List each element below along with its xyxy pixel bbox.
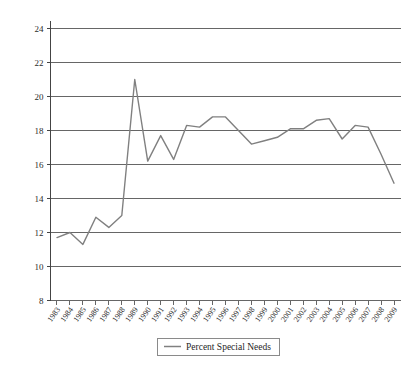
x-axis-ticks: [57, 301, 394, 305]
x-tick-label: 1997: [227, 305, 244, 323]
x-tick-label: 2008: [370, 305, 387, 323]
x-tick-label: 2005: [331, 305, 348, 323]
x-tick-label: 2004: [318, 305, 335, 323]
x-tick-label: 2002: [292, 305, 309, 323]
y-tick-label: 16: [35, 160, 45, 170]
x-tick-label: 1989: [123, 305, 140, 323]
x-tick-label: 2007: [357, 305, 374, 323]
x-tick-label: 1986: [84, 305, 101, 323]
y-axis: [47, 21, 51, 301]
x-tick-label: 1983: [46, 305, 63, 323]
y-tick-label: 12: [35, 228, 44, 238]
y-tick-label: 14: [35, 194, 45, 204]
series-line: [57, 80, 394, 245]
x-tick-label: 1990: [136, 305, 153, 323]
x-tick-label: 1996: [214, 305, 231, 323]
y-tick-label: 8: [39, 296, 44, 306]
y-tick-label: 24: [35, 24, 45, 34]
legend-label: Percent Special Needs: [186, 342, 271, 352]
y-tick-label: 22: [35, 58, 44, 68]
x-tick-label: 2000: [266, 305, 283, 323]
chart-legend: Percent Special Needs: [157, 338, 279, 355]
x-tick-label: 1984: [59, 305, 76, 323]
x-tick-label: 1992: [162, 305, 179, 323]
y-tick-label: 10: [35, 262, 45, 272]
x-tick-label: 1993: [175, 305, 192, 323]
x-tick-label: 2001: [279, 305, 296, 323]
x-tick-label: 2006: [344, 305, 361, 323]
x-tick-label: 1985: [71, 305, 88, 323]
chart-container: 81012141618202224 1983198419851986198719…: [0, 0, 418, 365]
y-tick-label: 18: [35, 126, 45, 136]
x-axis-tick-labels: 1983198419851986198719881989199019911992…: [46, 305, 400, 323]
x-tick-label: 1994: [188, 305, 205, 323]
x-tick-label: 1995: [201, 305, 218, 323]
x-tick-label: 1991: [149, 305, 166, 323]
x-tick-label: 2009: [383, 305, 400, 323]
gridlines: [51, 29, 401, 301]
x-tick-label: 1998: [240, 305, 257, 323]
line-chart: 81012141618202224 1983198419851986198719…: [0, 0, 418, 365]
x-tick-label: 1999: [253, 305, 270, 323]
x-tick-label: 2003: [305, 305, 322, 323]
y-axis-tick-labels: 81012141618202224: [35, 24, 45, 306]
data-series-group: [57, 80, 394, 245]
x-tick-label: 1988: [110, 305, 127, 323]
y-tick-label: 20: [35, 92, 45, 102]
x-tick-label: 1987: [97, 305, 114, 323]
